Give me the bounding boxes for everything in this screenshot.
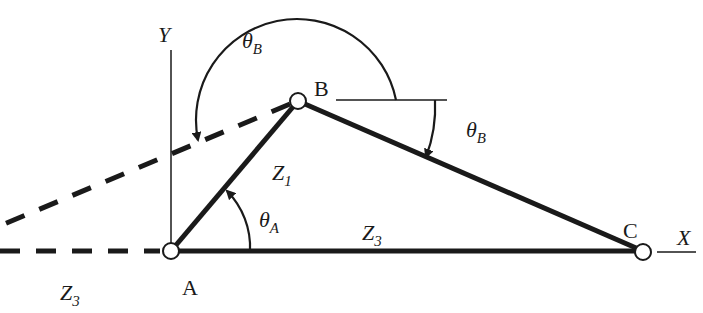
linkage-diagram: Y X A B C Z1 Z3 Z3 θA θB θB — [0, 0, 703, 313]
theta-a-label: θA — [259, 207, 280, 236]
joint-a — [163, 243, 179, 259]
point-b-label: B — [314, 76, 329, 101]
joint-c — [635, 244, 651, 260]
z3-extension-label: Z3 — [60, 280, 80, 309]
z3-label: Z3 — [362, 220, 382, 249]
y-axis-label: Y — [158, 22, 173, 47]
joint-b — [290, 93, 306, 109]
theta-b-small-arc — [426, 100, 435, 157]
theta-a-arc — [227, 191, 250, 251]
point-c-label: C — [623, 218, 638, 243]
theta-b-top-label: θB — [242, 28, 262, 57]
z1-label: Z1 — [272, 160, 292, 189]
point-a-label: A — [182, 275, 198, 300]
theta-b-right-label: θB — [466, 117, 486, 146]
x-axis-label: X — [676, 225, 692, 250]
theta-b-large-arc — [196, 19, 396, 140]
